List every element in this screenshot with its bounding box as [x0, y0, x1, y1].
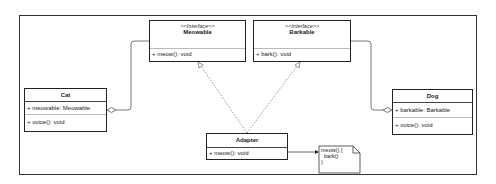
- class-meowable[interactable]: <<Interface>> Meowable + meow(): void: [149, 20, 246, 62]
- class-name: Barkable: [254, 29, 350, 35]
- adapter-meowable-realization: [201, 66, 247, 133]
- note-arrow-icon: [315, 150, 319, 154]
- method-row: + voice(): void: [25, 114, 106, 129]
- stereotype-label: <<Interface>>: [254, 21, 350, 29]
- note-text: meow() { bark() }: [321, 147, 343, 165]
- realization-arrow-icon: [198, 62, 203, 68]
- method-row: + meow(): void: [150, 49, 245, 59]
- class-header: <<Interface>> Meowable: [150, 21, 245, 49]
- class-barkable[interactable]: <<Interface>> Barkable + bark(): void: [253, 20, 351, 62]
- class-name: Dog: [393, 90, 472, 102]
- stereotype-label: <<Interface>>: [150, 21, 245, 29]
- aggregation-diamond-icon: [107, 108, 116, 113]
- class-header: <<Interface>> Barkable: [254, 21, 350, 49]
- class-dog[interactable]: Dog + barkable: Barkable + voice(): void: [392, 89, 473, 135]
- class-cat[interactable]: Cat + meowable: Meowable + voice(): void: [24, 88, 107, 132]
- method-row: + bark(): void: [254, 49, 350, 59]
- aggregation-diamond-icon: [383, 108, 392, 113]
- adapter-barkable-realization: [247, 66, 297, 133]
- method-row: + meow(): void: [207, 148, 287, 158]
- class-header: Cat: [25, 89, 106, 102]
- attribute-row: + meowable: Meowable: [25, 102, 106, 114]
- attribute-row: + barkable: Barkable: [393, 103, 472, 117]
- cat-meowable-aggregation: [116, 41, 149, 110]
- dog-barkable-aggregation: [351, 41, 383, 110]
- class-header: Dog: [393, 90, 472, 103]
- class-header: Adapter: [207, 134, 287, 148]
- class-name: Cat: [25, 89, 106, 101]
- class-name: Meowable: [150, 29, 245, 35]
- method-row: + voice(): void: [393, 117, 472, 132]
- class-name: Adapter: [207, 134, 287, 147]
- class-adapter[interactable]: Adapter + meow(): void: [206, 133, 288, 160]
